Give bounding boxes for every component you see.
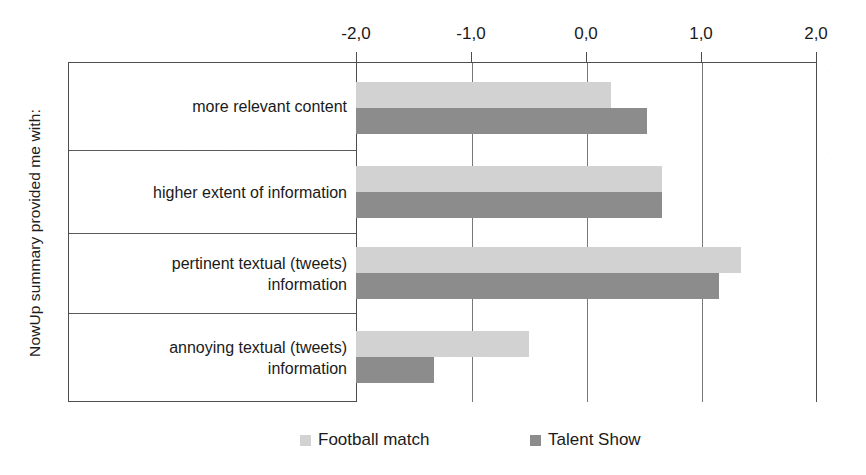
bar-chart: NowUp summary provided me with: -2,0 -1,…: [0, 0, 866, 475]
x-axis-tick-zero: [586, 52, 587, 63]
category-label-4-line-1: annoying textual (tweets): [169, 337, 347, 358]
x-tick-label-zero: 0,0: [574, 24, 598, 44]
category-label-4-line-2: information: [169, 358, 347, 379]
x-tick-label-pos1: 1,0: [689, 24, 713, 44]
category-label-4: annoying textual (tweets) information: [169, 337, 356, 379]
category-label-3-line-1: pertinent textual (tweets): [172, 253, 347, 274]
x-axis-tick-neg1: [471, 52, 472, 63]
x-axis-tick-pos2: [816, 52, 817, 63]
category-axis: more relevant content higher extent of i…: [68, 63, 356, 402]
category-label-3: pertinent textual (tweets) information: [172, 253, 356, 295]
bars-layer: [356, 63, 816, 402]
category-row-3: pertinent textual (tweets) information: [69, 233, 356, 313]
category-row-4: annoying textual (tweets) information: [69, 313, 356, 401]
bar-annoying-textual-information-talent-show: [356, 357, 434, 383]
legend-label-talent-show: Talent Show: [548, 430, 641, 450]
y-axis-title: NowUp summary provided me with:: [26, 63, 48, 403]
bar-pertinent-textual-information-football-match: [356, 247, 741, 273]
x-axis-tick-neg2: [356, 52, 357, 63]
x-tick-label-pos2: 2,0: [804, 24, 828, 44]
category-label-1: more relevant content: [192, 96, 356, 117]
category-label-2: higher extent of information: [153, 182, 356, 203]
category-label-3-line-2: information: [172, 274, 347, 295]
legend-swatch-football-match: [300, 435, 311, 446]
bar-pertinent-textual-information-talent-show: [356, 273, 719, 299]
x-tick-label-neg2: -2,0: [341, 24, 370, 44]
bar-higher-extent-of-information-football-match: [356, 166, 662, 192]
legend-label-football-match: Football match: [318, 430, 430, 450]
legend-swatch-talent-show: [530, 435, 541, 446]
category-row-1: more relevant content: [69, 63, 356, 150]
bar-more-relevant-content-talent-show: [356, 108, 647, 134]
legend-item-football-match: Football match: [300, 430, 430, 450]
category-label-2-line-1: higher extent of information: [153, 182, 347, 203]
gridline-pos2: [816, 63, 817, 402]
bar-higher-extent-of-information-talent-show: [356, 192, 662, 218]
chart-legend: Football match Talent Show: [0, 430, 866, 460]
x-tick-label-neg1: -1,0: [456, 24, 485, 44]
x-axis-tick-pos1: [701, 52, 702, 63]
bar-annoying-textual-information-football-match: [356, 331, 529, 357]
category-label-1-line-1: more relevant content: [192, 96, 347, 117]
category-row-2: higher extent of information: [69, 150, 356, 233]
bar-more-relevant-content-football-match: [356, 82, 611, 108]
legend-item-talent-show: Talent Show: [530, 430, 641, 450]
